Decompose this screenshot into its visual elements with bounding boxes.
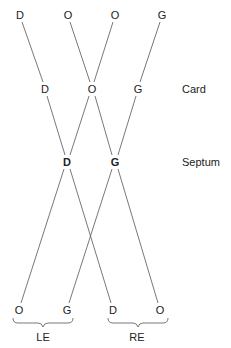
card-label-o: O	[88, 84, 97, 95]
bottom-label-d-re: D	[109, 305, 117, 316]
bottom-label-o-le: O	[15, 305, 24, 316]
connector-lines	[0, 0, 231, 348]
card-label-d: D	[41, 84, 49, 95]
top-label-o1: O	[64, 10, 73, 21]
septum-row-label: Septum	[182, 157, 220, 168]
top-label-d: D	[16, 10, 24, 21]
card-row-label: Card	[182, 84, 206, 95]
top-label-o2: O	[111, 10, 120, 21]
left-eye-label: LE	[36, 332, 49, 343]
septum-label-g: G	[111, 157, 120, 168]
card-label-g: G	[134, 84, 143, 95]
right-eye-label: RE	[129, 332, 144, 343]
bottom-label-g-le: G	[63, 305, 72, 316]
septum-label-d: D	[63, 157, 71, 168]
top-label-g: G	[158, 10, 167, 21]
bottom-label-o-re: O	[156, 305, 165, 316]
